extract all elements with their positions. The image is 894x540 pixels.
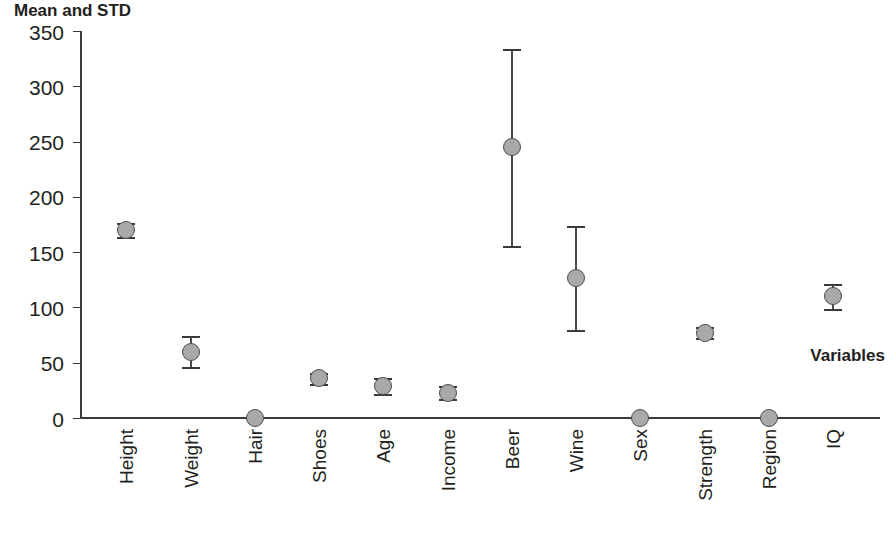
x-axis-label-sex: Sex	[631, 429, 650, 462]
x-axis-label-height: Height	[117, 429, 136, 484]
error-bar-cap-lower	[182, 367, 200, 369]
chart-title: Mean and STD	[14, 1, 131, 21]
y-tick-label-300: 300	[29, 76, 64, 97]
y-tick-250: 250	[73, 142, 80, 143]
marker-weight[interactable]	[182, 343, 200, 361]
x-axis-caption: Variables	[810, 346, 885, 366]
error-bar-cap-lower	[503, 246, 521, 248]
error-bar-cap-lower	[567, 330, 585, 332]
y-tick-label-50: 50	[41, 353, 64, 374]
y-tick-label-250: 250	[29, 132, 64, 153]
marker-iq[interactable]	[824, 287, 842, 305]
marker-age[interactable]	[374, 377, 392, 395]
marker-sex[interactable]	[631, 409, 649, 427]
x-axis-label-hair: Hair	[245, 429, 264, 464]
error-bar-cap-upper	[567, 226, 585, 228]
y-tick-150: 150	[73, 252, 80, 253]
x-axis-label-region: Region	[759, 429, 778, 489]
y-tick-label-350: 350	[29, 21, 64, 42]
marker-wine[interactable]	[567, 269, 585, 287]
marker-beer[interactable]	[503, 138, 521, 156]
y-tick-200: 200	[73, 197, 80, 198]
x-axis-label-iq: IQ	[824, 429, 843, 449]
x-axis-label-strength: Strength	[695, 429, 714, 501]
error-bar-cap-upper	[182, 336, 200, 338]
y-tick-100: 100	[73, 307, 80, 308]
error-bar-cap-upper	[503, 49, 521, 51]
y-tick-0: 0	[73, 418, 80, 419]
y-tick-label-0: 0	[52, 408, 64, 429]
marker-income[interactable]	[439, 384, 457, 402]
y-tick-label-100: 100	[29, 297, 64, 318]
x-axis-label-wine: Wine	[567, 429, 586, 472]
error-bar-cap-upper	[824, 284, 842, 286]
x-axis-label-age: Age	[374, 429, 393, 463]
y-tick-300: 300	[73, 86, 80, 87]
marker-region[interactable]	[760, 409, 778, 427]
y-tick-label-200: 200	[29, 187, 64, 208]
marker-strength[interactable]	[696, 324, 714, 342]
marker-hair[interactable]	[246, 409, 264, 427]
plot-area: 050100150200250300350 HeightWeightHairSh…	[80, 31, 880, 418]
chart-page: Mean and STD 050100150200250300350 Heigh…	[0, 0, 894, 540]
error-bar-cap-lower	[824, 309, 842, 311]
y-tick-350: 350	[73, 31, 80, 32]
x-axis-label-beer: Beer	[502, 429, 521, 469]
x-axis-label-weight: Weight	[181, 429, 200, 488]
y-tick-label-150: 150	[29, 242, 64, 263]
x-axis-label-income: Income	[438, 429, 457, 491]
y-tick-50: 50	[73, 363, 80, 364]
x-axis-label-shoes: Shoes	[310, 429, 329, 483]
y-axis-line	[80, 31, 82, 418]
